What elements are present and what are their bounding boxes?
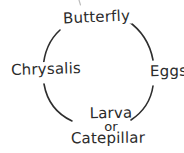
node-label-catepillar: Catepillar [57,131,159,147]
stray-mark-top [79,0,81,5]
diagram-canvas: Butterfly Eggs Larva or Catepillar Chrys… [0,0,184,153]
node-label-larva-group: Larva or Catepillar [63,106,159,146]
node-label-butterfly: Butterfly [61,8,133,26]
arc-butterfly-to-eggs [128,21,153,60]
node-label-eggs: Eggs [148,64,184,80]
node-label-chrysalis: Chrysalis [9,61,83,78]
node-label-larva: Larva [63,105,159,122]
